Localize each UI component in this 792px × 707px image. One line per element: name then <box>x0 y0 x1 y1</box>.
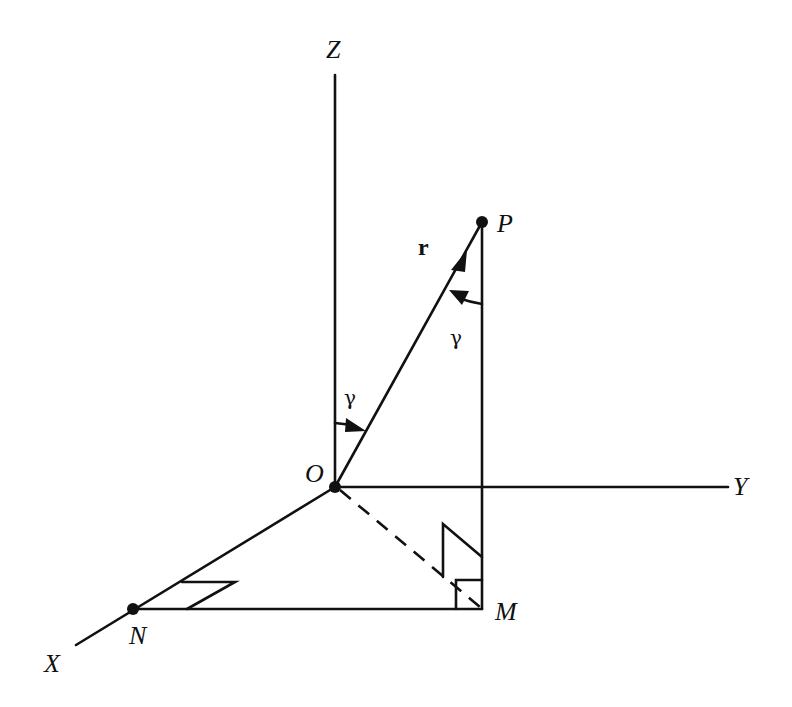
line-om-dashed <box>340 490 480 607</box>
point-p <box>476 216 488 228</box>
plane-marker-m <box>443 524 482 577</box>
point-o-label: O <box>305 459 324 488</box>
z-axis-label: Z <box>326 35 341 64</box>
y-axis-label: Y <box>733 472 750 501</box>
point-n-label: N <box>128 621 148 650</box>
x-axis-label: X <box>43 649 61 678</box>
vector-r-arrowhead <box>451 250 467 272</box>
angle-label-p: γ <box>450 326 462 350</box>
point-m-label: M <box>494 597 518 626</box>
x-axis <box>76 487 335 645</box>
angle-arrowhead-origin <box>345 418 366 432</box>
point-p-label: P <box>496 209 513 238</box>
angle-arrowhead-p <box>449 290 469 305</box>
vector-r-label: r <box>418 234 429 260</box>
angle-label-origin: γ <box>344 386 356 410</box>
point-o <box>329 481 341 493</box>
plane-marker-n <box>182 582 235 609</box>
coordinate-diagram: Z Y X r γ γ O P M N <box>0 0 792 707</box>
point-n <box>127 603 139 615</box>
